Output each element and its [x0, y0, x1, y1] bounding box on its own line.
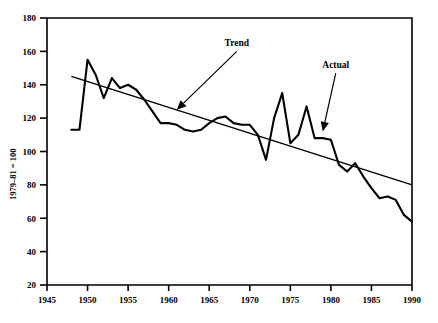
y-tick-label: 180: [23, 13, 37, 23]
annotation-label-trend: Trend: [225, 38, 250, 48]
chart-background: [0, 0, 438, 323]
y-tick-label: 20: [27, 280, 37, 290]
annotation-label-actual: Actual: [322, 60, 349, 70]
y-tick-label: 100: [23, 147, 37, 157]
y-tick-label: 140: [23, 80, 37, 90]
x-tick-label: 1965: [200, 295, 219, 305]
x-tick-label: 1960: [160, 295, 179, 305]
chart-container: 20406080100120140160180 1945195019551960…: [0, 0, 438, 323]
y-tick-label: 80: [27, 180, 37, 190]
y-tick-label: 120: [23, 113, 37, 123]
y-tick-label: 60: [27, 214, 37, 224]
y-tick-label: 40: [27, 247, 37, 257]
y-tick-label: 160: [23, 47, 37, 57]
x-tick-label: 1955: [119, 295, 138, 305]
x-tick-label: 1950: [79, 295, 98, 305]
y-axis-title: 1979–81 = 100: [8, 148, 18, 200]
line-chart: 20406080100120140160180 1945195019551960…: [0, 0, 438, 323]
x-tick-label: 1975: [281, 295, 300, 305]
x-tick-label: 1970: [241, 295, 260, 305]
x-tick-label: 1980: [322, 295, 341, 305]
x-tick-label: 1990: [403, 295, 422, 305]
x-tick-label: 1945: [38, 295, 57, 305]
x-tick-label: 1985: [362, 295, 381, 305]
